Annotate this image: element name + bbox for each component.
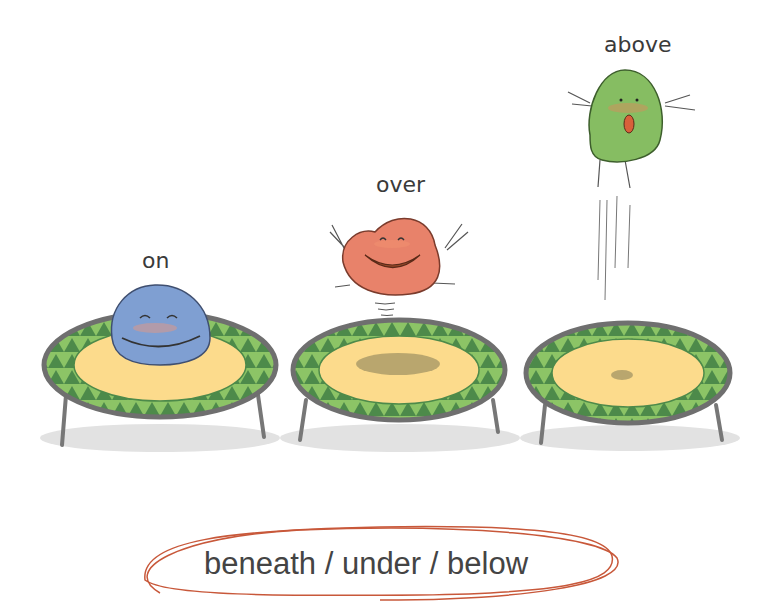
shadow <box>520 425 740 451</box>
caption-text: beneath / under / below <box>204 546 528 582</box>
label-above: above <box>604 32 671 57</box>
shadow <box>280 424 520 452</box>
red-character <box>330 218 468 315</box>
green-character <box>568 70 695 300</box>
trampoline-3 <box>526 323 730 443</box>
illustration <box>0 0 776 612</box>
trampoline-2 <box>293 320 505 440</box>
blue-character <box>111 285 210 365</box>
label-on: on <box>142 248 169 273</box>
shadow <box>40 424 280 452</box>
label-over: over <box>376 172 425 197</box>
